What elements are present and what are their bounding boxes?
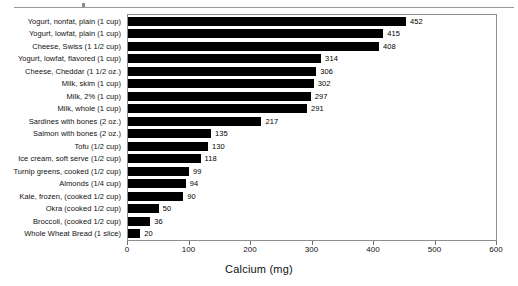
category-label: Cheese, Swiss (1 1/2 cup) [0, 40, 124, 53]
x-axis-tick-label: 0 [125, 246, 129, 254]
bar-row: 314 [128, 53, 497, 66]
bar-value-label: 99 [193, 168, 202, 176]
bar-row: 135 [128, 128, 497, 141]
bar-value-label: 36 [154, 218, 163, 226]
bar [128, 217, 150, 226]
category-label: Yogurt, lowfat, flavored (1 cup) [0, 53, 124, 66]
bar-value-label: 50 [163, 205, 172, 213]
bar-value-label: 90 [187, 193, 196, 201]
bar [128, 229, 140, 238]
bar-value-label: 130 [212, 143, 225, 151]
bar [128, 192, 183, 201]
bar-row: 20 [128, 228, 497, 241]
bar-row: 297 [128, 90, 497, 103]
category-label: Milk, whole (1 cup) [0, 103, 124, 116]
x-axis-tick-label: 100 [182, 246, 195, 254]
bar [128, 17, 406, 26]
x-axis-tick-label: 200 [243, 246, 256, 254]
bar-value-label: 297 [315, 93, 328, 101]
category-label: Kale, frozen, (cooked 1/2 cup) [0, 190, 124, 203]
bar-row: 452 [128, 15, 497, 28]
bar [128, 179, 186, 188]
category-label: Milk, skim (1 cup) [0, 78, 124, 91]
bar [128, 204, 159, 213]
bar [128, 54, 321, 63]
bar-row: 99 [128, 165, 497, 178]
bar-row: 217 [128, 115, 497, 128]
bar-row: 408 [128, 40, 497, 53]
bar [128, 67, 316, 76]
bar-row: 50 [128, 203, 497, 216]
bar [128, 154, 201, 163]
bar [128, 167, 189, 176]
bar-value-label: 135 [215, 130, 228, 138]
x-axis-tick-labels: 0100200300400500600 [0, 246, 518, 258]
bar-value-label: 408 [383, 43, 396, 51]
bar-row: 306 [128, 65, 497, 78]
bar [128, 142, 208, 151]
category-label: Sardines with bones (2 oz.) [0, 115, 124, 128]
category-label: Yogurt, lowfat, plain (1 cup) [0, 28, 124, 41]
category-label: Cheese, Cheddar (1 1/2 oz.) [0, 65, 124, 78]
bar-row: 118 [128, 153, 497, 166]
x-axis-tick-label: 400 [366, 246, 379, 254]
bar [128, 92, 311, 101]
bar [128, 29, 383, 38]
bar-value-label: 20 [144, 230, 153, 238]
x-axis-title: Calcium (mg) [0, 263, 518, 275]
bar-row: 130 [128, 140, 497, 153]
x-axis-tick-label: 500 [428, 246, 441, 254]
category-label: Whole Wheat Bread (1 slice) [0, 228, 124, 241]
bar [128, 117, 261, 126]
category-label: Yogurt, nonfat, plain (1 cup) [0, 15, 124, 28]
bars-container: 4524154083143063022972912171351301189994… [128, 15, 497, 240]
x-axis-tick-label: 300 [305, 246, 318, 254]
bar [128, 104, 307, 113]
category-axis-labels: Yogurt, nonfat, plain (1 cup)Yogurt, low… [0, 15, 124, 240]
bar-value-label: 217 [265, 118, 278, 126]
bar-value-label: 302 [318, 80, 331, 88]
category-label: Milk, 2% (1 cup) [0, 90, 124, 103]
bar-row: 94 [128, 178, 497, 191]
bar [128, 129, 211, 138]
bar-value-label: 452 [410, 18, 423, 26]
bar-value-label: 314 [325, 55, 338, 63]
category-label: Almonds (1/4 cup) [0, 178, 124, 191]
bar-value-label: 291 [311, 105, 324, 113]
bar-row: 90 [128, 190, 497, 203]
bar-value-label: 94 [190, 180, 199, 188]
category-label: Salmon with bones (2 oz.) [0, 128, 124, 141]
x-axis-tick-label: 600 [489, 246, 502, 254]
calcium-bar-chart: Yogurt, nonfat, plain (1 cup)Yogurt, low… [0, 0, 518, 286]
category-label: Okra (cooked 1/2 cup) [0, 203, 124, 216]
category-label: Turnip greens, cooked (1/2 cup) [0, 165, 124, 178]
bar-value-label: 306 [320, 68, 333, 76]
bar [128, 79, 314, 88]
bar-row: 36 [128, 215, 497, 228]
category-label: Tofu (1/2 cup) [0, 140, 124, 153]
bar-row: 291 [128, 103, 497, 116]
bar-value-label: 118 [205, 155, 217, 163]
bar-row: 302 [128, 78, 497, 91]
category-label: Ice cream, soft serve (1/2 cup) [0, 153, 124, 166]
bar [128, 42, 379, 51]
bar-value-label: 415 [387, 30, 400, 38]
category-label: Broccoli, (cooked 1/2 cup) [0, 215, 124, 228]
bar-row: 415 [128, 28, 497, 41]
